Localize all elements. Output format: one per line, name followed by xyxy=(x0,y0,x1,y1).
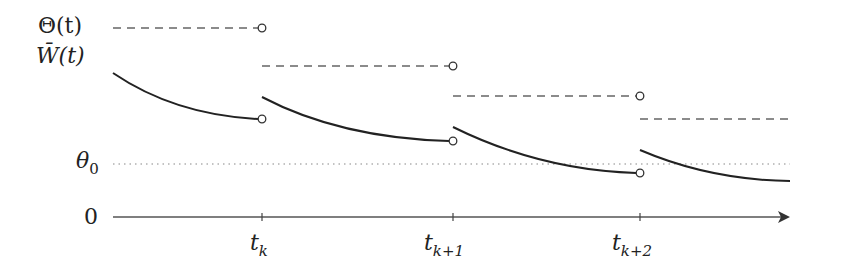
tick-label-tk1: tk+1 xyxy=(424,232,464,254)
w-bar-t-label: W̄(t) xyxy=(36,45,85,67)
w-bar-series xyxy=(113,73,790,181)
tick-sub: k+1 xyxy=(433,242,464,260)
zero-label: 0 xyxy=(84,206,98,228)
tick-main: t xyxy=(612,230,621,255)
theta0-label: θ0 xyxy=(76,150,99,172)
tick-sub: k+2 xyxy=(621,242,652,260)
tick-main: t xyxy=(424,230,433,255)
theta-threshold-series xyxy=(113,28,790,119)
tick-label-tk: tk xyxy=(250,232,268,254)
open-circle-markers xyxy=(258,24,644,177)
tick-sub: k xyxy=(259,242,268,260)
tick-label-tk2: tk+2 xyxy=(612,232,652,254)
theta-t-label: Θ(t) xyxy=(38,15,82,37)
theta0-sub: 0 xyxy=(89,160,99,178)
theta0-main: θ xyxy=(76,148,89,173)
tick-main: t xyxy=(250,230,259,255)
